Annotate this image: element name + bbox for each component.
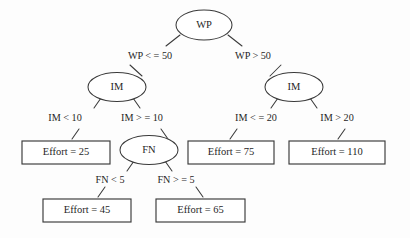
node-label-im_left: IM	[111, 81, 124, 92]
edge-label-wp_gt_50: WP > 50	[235, 50, 271, 61]
leaf-label-leaf45: Effort = 45	[64, 204, 111, 215]
connector-root-to-left	[166, 35, 180, 46]
connector-fn-to-leaf65	[165, 161, 172, 171]
decision-node-im_left: IM	[88, 73, 146, 102]
edge-label-wp_le_50: WP < = 50	[128, 50, 172, 61]
leaf-node-leaf75: Effort = 75	[188, 141, 274, 164]
decision-node-im_right: IM	[265, 73, 323, 102]
connector-leaf25-stub	[72, 129, 79, 139]
connector-imleft-to-fn	[133, 98, 140, 108]
leaf-node-leaf110: Effort = 110	[289, 141, 385, 164]
node-label-root: WP	[196, 19, 212, 30]
connector-lines-group	[72, 35, 345, 197]
decision-node-fn: FN	[120, 136, 178, 165]
connector-leaf65-stub	[196, 187, 203, 197]
leaf-label-leaf75: Effort = 75	[208, 146, 255, 157]
edge-label-im_gt_20: IM > 20	[320, 112, 353, 123]
leaf-label-leaf110: Effort = 110	[311, 146, 362, 157]
edge-label-fn_lt_5: FN < 5	[96, 174, 125, 185]
decision-node-root: WP	[176, 10, 232, 40]
leaf-node-leaf65: Effort = 65	[156, 199, 245, 222]
node-label-im_right: IM	[288, 81, 301, 92]
edge-label-fn_ge_5: FN > = 5	[157, 174, 194, 185]
connector-leaf75-stub	[230, 129, 237, 139]
node-label-fn: FN	[142, 144, 156, 155]
edge-labels-group: WP < = 50WP > 50IM < 10IM > = 10IM < = 2…	[48, 50, 353, 185]
edge-label-im_le_20: IM < = 20	[235, 112, 277, 123]
connector-leaf110-stub	[338, 129, 345, 139]
connector-imleft-to-leaf25	[94, 98, 101, 108]
leaf-node-leaf45: Effort = 45	[43, 199, 131, 222]
connector-root-to-right	[228, 35, 242, 46]
connector-leaf45-stub	[98, 187, 105, 197]
edge-label-im_ge_10: IM > = 10	[121, 112, 163, 123]
tree-canvas: Effort = 25Effort = 75Effort = 110Effort…	[0, 0, 410, 238]
leaf-label-leaf65: Effort = 65	[177, 204, 224, 215]
connector-imright-to-leaf110	[310, 98, 317, 108]
edge-label-im_lt_10: IM < 10	[48, 112, 81, 123]
connector-imright-to-leaf75	[271, 98, 278, 108]
leaf-node-leaf25: Effort = 25	[22, 141, 110, 164]
leaf-label-leaf25: Effort = 25	[43, 146, 90, 157]
leaf-nodes-group: Effort = 25Effort = 75Effort = 110Effort…	[22, 141, 385, 222]
decision-tree-diagram: Effort = 25Effort = 75Effort = 110Effort…	[0, 0, 410, 238]
